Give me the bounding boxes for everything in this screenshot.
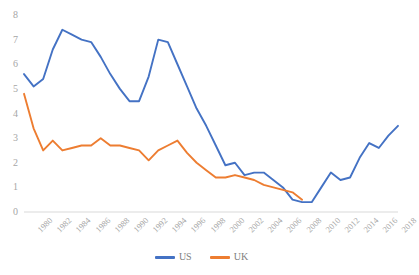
y-axis-tick-label: 6 [2, 59, 18, 69]
x-axis-tick-label: 2018 [400, 216, 418, 234]
legend-entry-uk[interactable]: UK [210, 252, 248, 262]
series-line-uk [24, 94, 302, 200]
legend-label: UK [234, 252, 248, 262]
y-axis-tick-label: 1 [2, 182, 18, 192]
y-axis-tick-label: 4 [2, 109, 18, 119]
y-axis-tick-label: 2 [2, 158, 18, 168]
series-group [24, 30, 398, 202]
y-axis-tick-label: 8 [2, 10, 18, 20]
y-axis-tick-label: 3 [2, 133, 18, 143]
legend-label: US [179, 252, 192, 262]
legend-swatch-us [155, 256, 175, 259]
y-axis-tick-label: 0 [2, 207, 18, 217]
series-line-us [24, 30, 398, 202]
legend-entry-us[interactable]: US [155, 252, 192, 262]
chart-legend: USUK [0, 252, 403, 262]
legend-swatch-uk [210, 256, 230, 259]
y-axis-tick-label: 7 [2, 35, 18, 45]
y-axis-tick-label: 5 [2, 84, 18, 94]
